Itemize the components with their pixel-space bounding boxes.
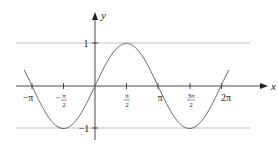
x-axis-label: x [270,80,276,92]
svg-text:2: 2 [189,101,193,109]
x-tick-label-2pi: 2π [221,92,231,103]
y-tick-label-1: 1 [84,38,89,49]
svg-text:2: 2 [125,101,129,109]
x-tick-label-neg-pi-over-2: − π 2 [56,92,67,109]
y-axis-label: y [100,9,106,21]
x-tick-label-3pi-over-2: 3π 2 [187,92,195,109]
svg-text:3π: 3π [187,92,195,100]
x-tick-label-pi: π [157,92,162,103]
x-axis-arrow-icon [260,83,268,89]
y-tick-label-neg1: −1 [79,123,90,134]
y-axis-arrow-icon [92,12,98,20]
x-tick-label-pi-over-2: π 2 [124,92,130,109]
svg-text:−: − [56,93,61,102]
x-tick-label-neg-pi: −π [23,92,34,103]
svg-text:π: π [62,92,66,100]
sine-graph: y x 1 −1 −π − π 2 π 2 π 3π 2 2π [0,0,278,145]
svg-text:π: π [125,92,129,100]
svg-text:2: 2 [62,101,66,109]
